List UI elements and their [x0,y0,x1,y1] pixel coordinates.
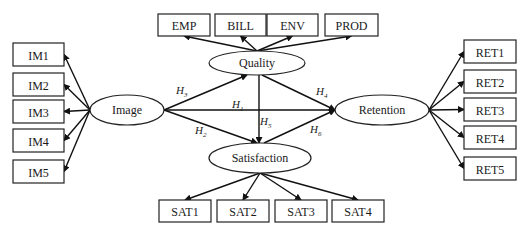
hypothesis-h1-label: H1 [231,98,243,113]
construct-retention: Retention [335,95,429,125]
indicator-sat4: SAT4 [332,200,384,222]
satisfaction-label: Satisfaction [232,151,289,165]
image-indicator-arrow [64,110,90,141]
image-label: Image [112,103,142,117]
indicator-env: ENV [267,14,318,36]
indicator-sat1: SAT1 [159,200,211,222]
retention-indicator-arrow [429,110,464,169]
indicator-label: ENV [280,19,305,33]
construct-image: Image [90,95,164,125]
quality-label: Quality [239,56,275,70]
indicator-sat2: SAT2 [217,200,269,222]
retention-indicator-arrow [429,110,464,138]
indicator-label: SAT3 [287,205,314,219]
indicator-label: IM5 [28,166,49,180]
indicator-label: SAT1 [171,205,198,219]
indicator-im5: IM5 [13,160,64,183]
retention-indicator-arrow [429,110,464,111]
indicator-label: IM3 [28,106,49,120]
image-indicator-arrow [64,110,90,112]
hypothesis-h4-label: H4 [315,85,328,100]
indicator-im3: IM3 [13,100,64,123]
indicator-label: RET1 [476,46,505,60]
satisfaction-indicator-arrow [243,173,260,200]
sem-diagram: ImageQualitySatisfactionRetentionIM1IM2I… [0,0,524,225]
indicator-im2: IM2 [13,73,64,96]
indicator-emp: EMP [158,14,210,36]
indicator-label: SAT2 [229,205,256,219]
indicator-label: EMP [172,19,197,33]
indicator-ret3: RET3 [464,98,516,121]
satisfaction-indicator-arrow [260,173,301,200]
indicator-sat3: SAT3 [275,200,327,222]
indicator-label: IM4 [28,135,49,149]
image-indicator-arrow [64,110,90,172]
indicator-label: RET4 [476,132,505,146]
retention-indicator-arrow [429,52,464,111]
quality-indicator-arrow [184,36,257,51]
hypothesis-h2-label: H2 [194,124,207,139]
retention-indicator-arrow [429,82,464,111]
indicator-im1: IM1 [13,43,64,66]
indicator-label: PROD [335,19,367,33]
indicator-label: BILL [227,19,254,33]
quality-indicator-arrow [257,36,352,51]
hypothesis-h3-label: H3 [175,84,188,99]
construct-quality: Quality [209,51,305,75]
hypothesis-labels: H3H1H2H4H5H6 [175,84,328,139]
indicator-label: RET5 [476,163,505,177]
construct-satisfaction: Satisfaction [209,143,311,173]
indicator-ret4: RET4 [464,126,516,149]
hypothesis-h5-label: H5 [259,115,272,130]
path-h6 [264,110,335,143]
indicator-ret2: RET2 [464,70,516,93]
indicator-label: RET2 [476,76,505,90]
satisfaction-indicator-arrow [185,173,260,200]
path-h2 [164,110,257,143]
indicator-label: IM2 [28,79,49,93]
hypothesis-h6-label: H6 [309,123,322,138]
indicator-ret1: RET1 [464,40,516,63]
indicator-label: IM1 [28,49,49,63]
indicator-ret5: RET5 [464,157,516,180]
indicator-label: RET3 [476,104,505,118]
indicator-im4: IM4 [13,129,64,152]
retention-label: Retention [359,103,406,117]
image-indicator-arrow [64,85,90,111]
indicator-bill: BILL [215,14,266,36]
indicator-label: SAT4 [344,205,371,219]
satisfaction-indicator-arrow [260,173,358,200]
indicator-prod: PROD [325,14,378,36]
image-indicator-arrow [64,55,90,111]
